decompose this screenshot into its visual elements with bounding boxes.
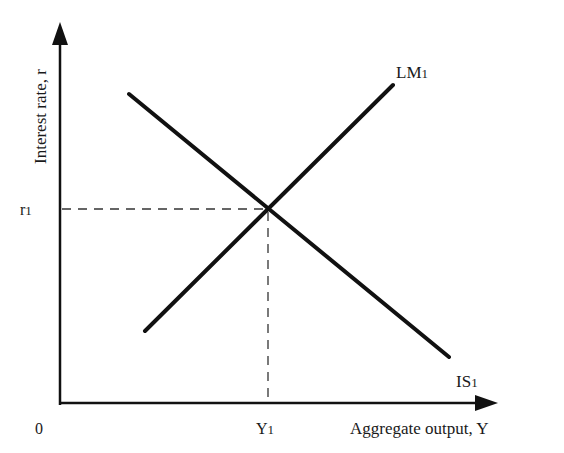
is-curve xyxy=(129,94,449,357)
origin-label: 0 xyxy=(35,420,43,437)
x-axis-arrow-icon xyxy=(475,395,498,411)
is-label: IS1 xyxy=(456,372,478,391)
y-axis-arrow-icon xyxy=(52,22,68,45)
r1-label: r1 xyxy=(20,201,32,218)
is-lm-diagram: Interest rate, r r1 0 Y1 Aggregate outpu… xyxy=(0,0,564,453)
x-axis-label: Aggregate output, Y xyxy=(350,419,489,438)
y-axis-label: Interest rate, r xyxy=(31,69,50,164)
lm-label: LM1 xyxy=(396,63,428,82)
y1-label: Y1 xyxy=(256,420,274,437)
lm-curve xyxy=(145,85,393,331)
